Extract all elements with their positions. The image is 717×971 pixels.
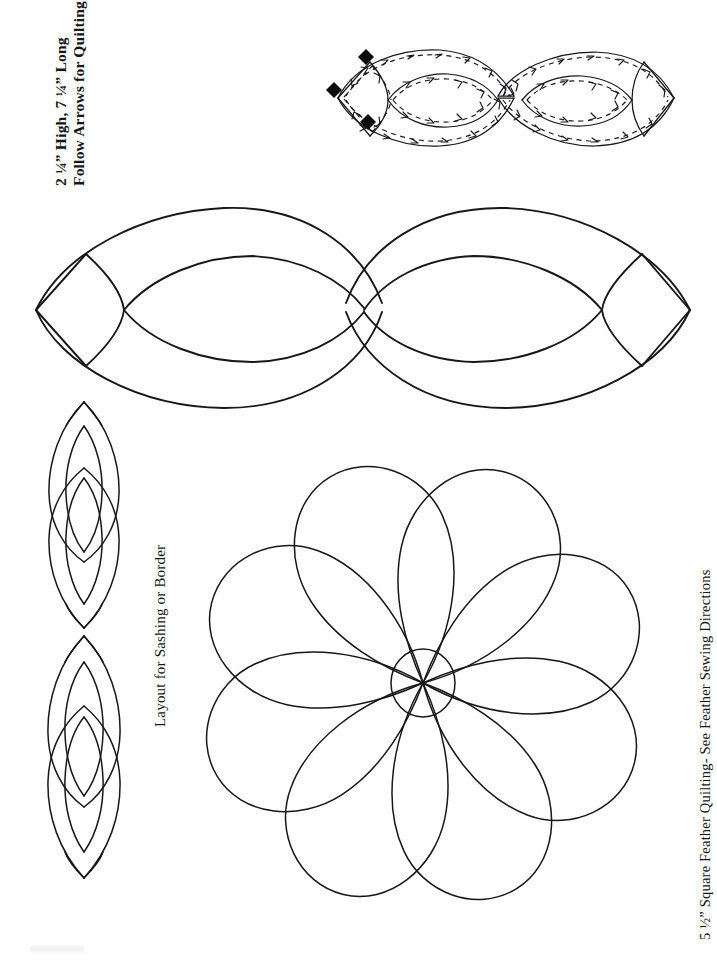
- sashing-border-motif: [38, 628, 130, 886]
- scan-artifact: [30, 946, 84, 952]
- feather-flower-petals: [182, 442, 664, 924]
- sashing-motif-inner: [66, 426, 102, 604]
- pattern-page: 2 ¼” High, 7 ¼” Long Follow Arrows for Q…: [0, 0, 717, 971]
- sashing-motif-caps: [66, 402, 102, 628]
- sashing-border-motif: [38, 396, 130, 634]
- sashing-motif-caps: [65, 636, 103, 878]
- sashing-motif-outer: [49, 402, 119, 628]
- dimensions-label-line2: Follow Arrows for Quilting: [70, 1, 88, 186]
- feather-petal: [421, 530, 653, 736]
- dimensions-and-instruction-label: 2 ¼” High, 7 ¼” Long Follow Arrows for Q…: [52, 1, 89, 186]
- start-marker-diamond: [358, 49, 374, 65]
- feather-petal: [338, 442, 599, 693]
- large-double-lens-pattern: [24, 198, 704, 418]
- feather-petal: [182, 507, 433, 768]
- sashing-motif-outer: [48, 636, 120, 878]
- square-and-feather-label: 5 ½” Square Feather Quilting- See Feathe…: [697, 569, 714, 940]
- feather-petal: [370, 681, 576, 913]
- feather-flower-pattern: [168, 428, 678, 938]
- large-pattern-right-cap: [602, 254, 690, 366]
- feather-petal: [193, 630, 425, 836]
- feather-petal: [270, 453, 476, 685]
- stitch-diagram-cap-strokes: [338, 62, 674, 136]
- sashing-motif-inner: [65, 662, 103, 852]
- feather-petal: [413, 598, 664, 859]
- feather-petal: [247, 673, 508, 924]
- dimensions-label-line1: 2 ¼” High, 7 ¼” Long: [52, 1, 70, 186]
- large-pattern-left-cap: [36, 254, 124, 366]
- square-and-feather-label-text: 5 ½” Square Feather Quilting- See Feathe…: [697, 569, 714, 940]
- stitch-direction-diagram: [322, 36, 692, 166]
